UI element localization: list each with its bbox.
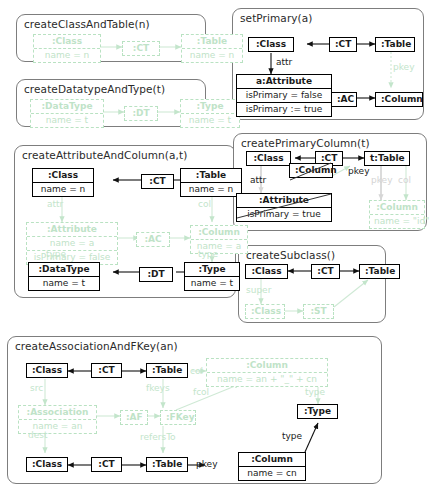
node-column-new[interactable]: :Column name = an + "_" + cn <box>206 358 328 387</box>
edge-label-super: super <box>246 285 271 295</box>
node-class[interactable]: :Class name = n <box>32 168 94 197</box>
node-class-dest[interactable]: :Class <box>26 457 68 472</box>
edge-label-col: col <box>190 366 203 376</box>
node-header: :Column <box>207 359 327 372</box>
node-header: :Class <box>27 458 67 471</box>
node-header: :Association <box>19 406 96 419</box>
node-header: :Column <box>370 201 424 214</box>
node-header: :DataType <box>31 100 103 113</box>
node-ct[interactable]: :CT <box>329 37 357 52</box>
rule-title: setPrimary(a) <box>240 12 313 24</box>
node-slot: name = t <box>185 276 239 290</box>
node-slot: name = n <box>181 182 241 196</box>
node-header: :Table <box>147 458 187 471</box>
node-column-nac[interactable]: :Column <box>289 163 333 178</box>
node-header: :AF <box>121 411 147 424</box>
node-table[interactable]: t:Table <box>364 151 410 166</box>
node-slot: name = n <box>182 48 242 62</box>
node-ac[interactable]: :AC <box>136 232 170 247</box>
node-dt[interactable]: :DT <box>139 267 173 282</box>
node-class[interactable]: :Class <box>248 37 294 52</box>
node-table[interactable]: :Table <box>359 264 400 279</box>
node-dt[interactable]: :DT <box>124 106 158 121</box>
node-ct[interactable]: :CT <box>122 41 160 56</box>
rule-title: createClassAndTable(n) <box>24 18 150 30</box>
node-table-dest[interactable]: :Table <box>146 457 188 472</box>
node-header: :Table <box>182 35 242 48</box>
node-header: :ST <box>304 305 333 318</box>
node-header: :CT <box>123 42 159 55</box>
node-slot: name = cn <box>239 466 305 480</box>
node-slot: name = n <box>34 48 100 62</box>
node-slot: isPrimary := true <box>237 102 331 116</box>
node-header: :Attribute <box>237 194 331 207</box>
node-st[interactable]: :ST <box>303 304 334 319</box>
node-slot: name = t <box>29 276 99 290</box>
node-fkey[interactable]: :FKey <box>160 410 196 425</box>
edge-label-type-right: type <box>198 249 218 259</box>
node-header: :CT <box>92 458 121 471</box>
node-column[interactable]: :Column <box>375 92 423 107</box>
node-header: :Attribute <box>27 223 117 236</box>
node-header: :AC <box>137 233 169 246</box>
node-header: :Class <box>27 364 67 377</box>
edge-label-fcol: fcol <box>193 387 209 397</box>
node-slot: isPrimary = true <box>237 207 331 221</box>
node-class-sub[interactable]: :Class <box>245 304 285 319</box>
edge-label-col: col <box>398 175 411 185</box>
node-attribute-nac[interactable]: :Attribute isPrimary = true <box>236 193 332 222</box>
node-column-pkey[interactable]: :Column name = cn <box>238 452 306 481</box>
edge-label-attr: attr <box>47 199 63 209</box>
node-attribute[interactable]: :Attribute name = a isPrimary = false <box>26 222 118 265</box>
edge-label-fkeys: fkeys <box>146 383 170 393</box>
node-table[interactable]: :Table name = n <box>180 168 242 197</box>
node-header: :CT <box>312 265 339 278</box>
node-table[interactable]: :Table <box>375 37 415 52</box>
node-header: :Table <box>147 364 187 377</box>
rule-title: createPrimaryColumn(t) <box>241 137 370 149</box>
node-slot: name = a <box>27 236 117 250</box>
node-header: :Table <box>376 38 414 51</box>
node-class[interactable]: :Class <box>246 151 291 166</box>
node-af[interactable]: :AF <box>120 410 148 425</box>
node-header: a:Attribute <box>237 75 331 88</box>
node-slot: name = an + "_" + cn <box>207 372 327 386</box>
node-type[interactable]: :Type <box>297 404 338 419</box>
rule-title: createDatatypeAndType(t) <box>24 83 165 95</box>
node-ac[interactable]: :AC <box>331 92 357 107</box>
node-header: :Column <box>376 93 422 106</box>
node-header: :Class <box>33 169 93 182</box>
node-header: :Type <box>181 100 239 113</box>
node-ct[interactable]: :CT <box>311 264 340 279</box>
node-table[interactable]: :Table name = n <box>181 34 243 63</box>
node-slot: name = n <box>33 182 93 196</box>
node-class[interactable]: :Class <box>245 264 288 279</box>
node-header: :DT <box>125 107 157 120</box>
node-datatype[interactable]: :DataType name = t <box>28 262 100 291</box>
rule-title: createAttributeAndColumn(a,t) <box>22 149 187 161</box>
edge-label-attr: attr <box>276 57 292 67</box>
rule-title: createAssociationAndFKey(an) <box>15 340 178 352</box>
node-header: :Column <box>239 453 305 466</box>
node-class-src[interactable]: :Class <box>26 363 68 378</box>
node-type[interactable]: :Type name = t <box>180 99 240 128</box>
node-header: :Type <box>185 263 239 276</box>
node-header: :Class <box>246 265 287 278</box>
node-header: :Class <box>34 35 100 48</box>
node-class[interactable]: :Class name = n <box>33 34 101 63</box>
node-ct-dest[interactable]: :CT <box>91 457 122 472</box>
node-datatype[interactable]: :DataType name = t <box>30 99 104 128</box>
edge-label-col: col <box>198 199 211 209</box>
node-ct[interactable]: :CT <box>141 174 174 189</box>
node-type[interactable]: :Type name = t <box>184 262 240 291</box>
edge-label-type-top: type <box>305 387 325 397</box>
node-column-created[interactable]: :Column name = "id" <box>369 200 425 229</box>
node-ct-src[interactable]: :CT <box>91 363 122 378</box>
edge-label-pkey-nac: pkey <box>371 175 392 185</box>
node-header: :Class <box>247 152 290 165</box>
edge-label-dest: dest <box>28 430 47 440</box>
node-header: :DataType <box>29 263 99 276</box>
edge-label-pkey: pkey <box>393 62 414 72</box>
node-attribute[interactable]: a:Attribute isPrimary = false isPrimary … <box>236 74 332 117</box>
node-table-src[interactable]: :Table <box>146 363 188 378</box>
